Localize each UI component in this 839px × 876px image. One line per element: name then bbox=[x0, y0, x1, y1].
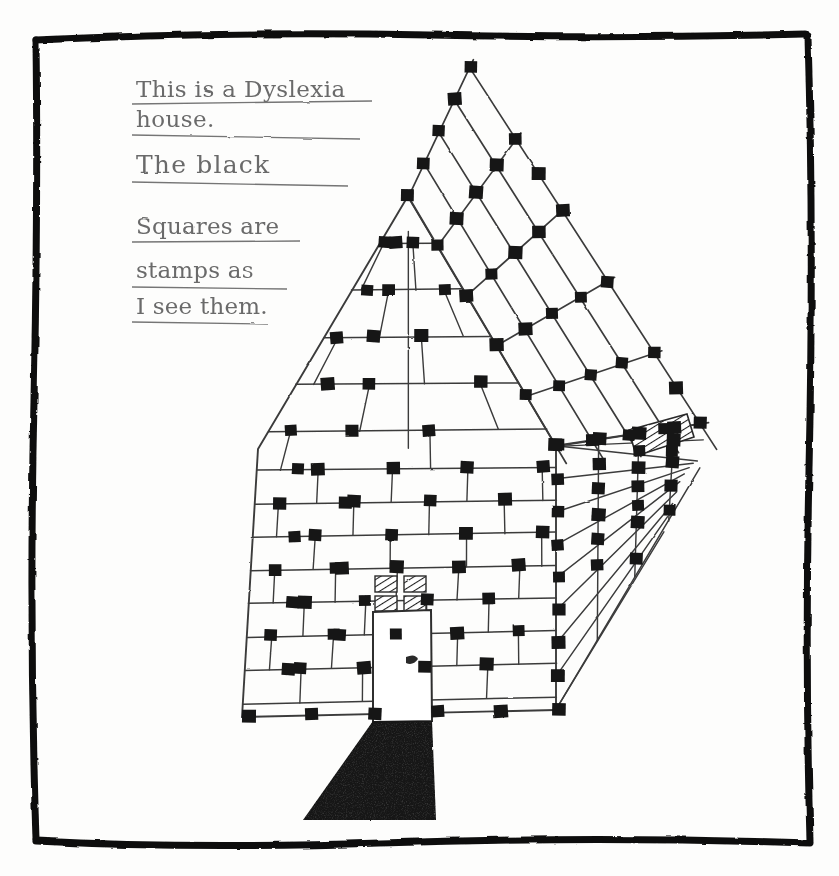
black-square-stamp bbox=[389, 236, 403, 249]
black-square-stamp bbox=[532, 226, 546, 239]
black-square-stamp bbox=[584, 369, 597, 381]
black-square-stamp bbox=[489, 338, 504, 351]
black-square-stamp bbox=[648, 347, 660, 359]
grid-line bbox=[488, 600, 489, 632]
black-square-stamp bbox=[333, 629, 346, 641]
black-square-stamp bbox=[368, 707, 382, 720]
black-square-stamp bbox=[452, 560, 466, 573]
black-square-stamp bbox=[469, 185, 484, 199]
black-square-stamp bbox=[518, 322, 532, 335]
black-square-stamp bbox=[450, 626, 465, 640]
black-square-stamp bbox=[615, 357, 628, 369]
black-square-stamp bbox=[592, 432, 606, 445]
black-square-stamp bbox=[591, 559, 604, 571]
black-square-stamp bbox=[485, 268, 497, 279]
black-square-stamp bbox=[513, 625, 525, 636]
black-square-stamp bbox=[387, 462, 401, 475]
black-square-stamp bbox=[631, 480, 644, 492]
black-square-stamp bbox=[666, 445, 678, 456]
black-square-stamp bbox=[305, 708, 318, 720]
black-square-stamp bbox=[285, 425, 297, 437]
black-square-stamp bbox=[320, 377, 335, 391]
black-square-stamp bbox=[664, 479, 677, 491]
black-square-stamp bbox=[273, 497, 287, 509]
black-square-stamp bbox=[632, 500, 644, 511]
black-square-stamp bbox=[667, 421, 681, 434]
black-square-stamp bbox=[432, 125, 445, 137]
grid-line bbox=[504, 501, 505, 534]
black-square-stamp bbox=[511, 558, 526, 572]
black-square-stamp bbox=[447, 92, 462, 106]
black-square-stamp bbox=[632, 461, 646, 474]
black-square-stamp bbox=[631, 515, 645, 528]
black-square-stamp bbox=[366, 330, 380, 343]
black-square-stamp bbox=[308, 529, 321, 541]
black-square-stamp bbox=[498, 493, 512, 506]
caption-line-3: The black bbox=[136, 150, 270, 179]
black-square-stamp bbox=[459, 527, 473, 540]
black-square-stamp bbox=[292, 463, 304, 475]
black-square-stamp bbox=[694, 416, 707, 428]
black-square-stamp bbox=[632, 427, 646, 440]
black-square-stamp bbox=[339, 497, 352, 509]
black-square-stamp bbox=[424, 495, 437, 507]
black-square-stamp bbox=[593, 458, 607, 471]
black-square-stamp bbox=[553, 571, 565, 582]
black-square-stamp bbox=[551, 636, 565, 649]
black-square-stamp bbox=[546, 308, 558, 319]
house-drawing-svg: This is a Dyslexia house. The black Squa… bbox=[0, 0, 839, 876]
black-square-stamp bbox=[551, 539, 564, 551]
artboard: This is a Dyslexia house. The black Squa… bbox=[0, 0, 839, 876]
black-square-stamp bbox=[406, 236, 419, 248]
black-square-stamp bbox=[551, 473, 564, 485]
black-square-stamp bbox=[556, 204, 570, 217]
black-square-stamp bbox=[666, 433, 680, 446]
black-square-stamp bbox=[361, 284, 374, 296]
black-square-stamp bbox=[552, 439, 565, 451]
black-square-stamp bbox=[592, 482, 606, 495]
black-square-stamp bbox=[363, 378, 376, 390]
black-square-stamp bbox=[382, 284, 395, 296]
black-square-stamp bbox=[389, 560, 404, 574]
black-square-stamp bbox=[664, 505, 676, 516]
black-square-stamp bbox=[460, 461, 474, 474]
black-square-stamp bbox=[474, 375, 488, 387]
black-square-stamp bbox=[242, 710, 256, 723]
black-square-stamp bbox=[479, 657, 494, 670]
black-square-stamp bbox=[356, 661, 371, 675]
black-square-stamp bbox=[345, 425, 358, 437]
black-square-stamp bbox=[553, 380, 565, 391]
black-square-stamp bbox=[390, 628, 402, 639]
black-square-stamp bbox=[490, 158, 504, 171]
black-square-stamp bbox=[418, 661, 431, 673]
drawing-page: This is a Dyslexia house. The black Squa… bbox=[0, 0, 839, 876]
caption-line-4: Squares are bbox=[136, 213, 279, 239]
black-square-stamp bbox=[459, 289, 473, 302]
black-square-stamp bbox=[311, 463, 325, 476]
black-square-stamp bbox=[509, 133, 522, 145]
black-square-stamp bbox=[385, 529, 398, 541]
black-square-stamp bbox=[552, 506, 565, 518]
black-square-stamp bbox=[591, 533, 605, 546]
black-square-stamp bbox=[264, 629, 277, 641]
black-square-stamp bbox=[281, 663, 295, 676]
black-square-stamp bbox=[591, 508, 606, 522]
black-square-stamp bbox=[552, 603, 565, 615]
black-square-stamp bbox=[482, 592, 495, 604]
black-square-stamp bbox=[298, 596, 313, 609]
black-square-stamp bbox=[439, 284, 451, 295]
black-square-stamp bbox=[414, 329, 428, 342]
black-square-stamp bbox=[575, 292, 587, 303]
black-square-stamp bbox=[330, 331, 344, 344]
black-square-stamp bbox=[669, 381, 683, 394]
black-square-stamp bbox=[630, 553, 643, 565]
black-square-stamp bbox=[359, 595, 371, 606]
black-square-stamp bbox=[421, 593, 434, 605]
black-square-stamp bbox=[335, 562, 349, 575]
black-square-stamp bbox=[449, 212, 463, 225]
black-square-stamp bbox=[552, 703, 566, 716]
black-square-stamp bbox=[665, 455, 679, 468]
black-square-stamp bbox=[633, 445, 645, 456]
black-square-stamp bbox=[465, 61, 478, 73]
black-square-stamp bbox=[536, 526, 550, 539]
